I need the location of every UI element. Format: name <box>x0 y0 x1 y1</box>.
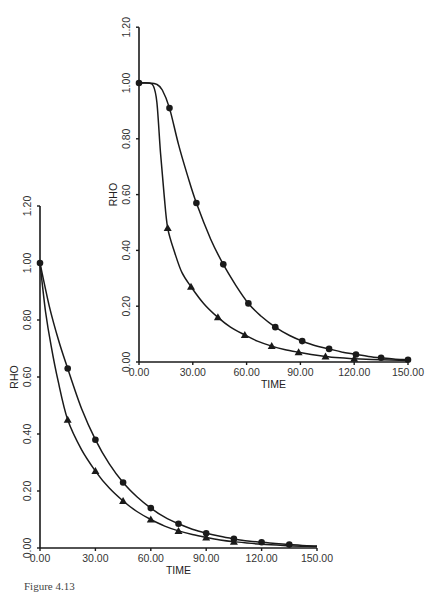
triangle-marker <box>147 516 155 523</box>
circle-marker <box>148 505 155 512</box>
circle-marker <box>286 541 293 548</box>
y-tick-label: 0.20 <box>120 296 132 317</box>
x-tick-label: 30.00 <box>180 366 206 378</box>
x-tick-label: 120.00 <box>246 552 278 564</box>
x-tick-label: 60.00 <box>233 366 259 378</box>
y-tick-label: 0.40 <box>21 424 33 445</box>
series-circles-line <box>139 83 408 360</box>
circle-marker <box>272 324 279 331</box>
x-tick-label: 90.00 <box>287 366 313 378</box>
y-tick-label: 0.00 <box>21 538 33 559</box>
x-tick-label: 150.00 <box>392 366 424 378</box>
x-tick-label: 150.00 <box>301 552 333 564</box>
y-tick-label: 1.00 <box>120 73 132 94</box>
y-tick-label: 0.80 <box>21 310 33 331</box>
circle-marker <box>220 261 227 268</box>
series-triangles-line <box>40 263 317 547</box>
triangle-marker <box>164 224 172 231</box>
y-tick-label: 0.40 <box>120 240 132 261</box>
y-tick-label: 1.20 <box>21 196 33 217</box>
circle-marker <box>64 365 71 372</box>
x-tick-label: 60.00 <box>138 552 164 564</box>
figure-caption: Figure 4.13 <box>24 580 75 592</box>
top-chart: 0.0030.0060.0090.00120.00150.000.000.200… <box>107 17 424 390</box>
circle-marker <box>92 436 99 443</box>
triangle-marker <box>64 416 72 423</box>
circle-marker <box>175 520 182 527</box>
series-circles-line <box>40 263 317 546</box>
circle-marker <box>405 356 412 363</box>
circle-marker <box>326 346 333 353</box>
x-tick-label: 30.00 <box>82 552 108 564</box>
series-triangles-line <box>139 83 408 361</box>
circle-marker <box>193 200 200 207</box>
circle-marker <box>166 105 173 112</box>
y-tick-label: 1.00 <box>21 253 33 274</box>
y-axis-title: RHO <box>8 365 20 388</box>
x-tick-label: 90.00 <box>193 552 219 564</box>
y-tick-label: 0.60 <box>21 367 33 388</box>
y-tick-label: 0.00 <box>120 352 132 373</box>
triangle-marker <box>241 331 249 338</box>
y-tick-label: 0.80 <box>120 128 132 149</box>
circle-marker <box>245 300 252 307</box>
circle-marker <box>120 479 127 486</box>
circle-marker <box>299 338 306 345</box>
y-tick-label: 1.20 <box>120 17 132 38</box>
x-axis-title: TIME <box>166 564 191 576</box>
x-tick-label: 120.00 <box>338 366 370 378</box>
y-tick-label: 0.20 <box>21 481 33 502</box>
y-axis-title: RHO <box>107 183 119 206</box>
x-axis-title: TIME <box>261 378 286 390</box>
y-tick-label: 0.60 <box>120 184 132 205</box>
